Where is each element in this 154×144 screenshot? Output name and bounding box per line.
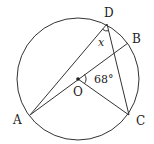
angle-arc-d — [103, 29, 109, 31]
geometry-diagram: D B A C O x 68° — [0, 0, 154, 144]
label-d: D — [104, 6, 114, 20]
label-c: C — [136, 114, 145, 128]
label-a: A — [12, 113, 22, 127]
angle-label-68: 68° — [94, 73, 114, 86]
angle-label-x: x — [98, 36, 105, 49]
center-point-o — [76, 77, 80, 81]
angle-arc-o — [84, 74, 86, 83]
label-o: O — [73, 85, 83, 99]
diagram-svg: D B A C O x 68° — [0, 0, 154, 144]
chord-ad — [30, 24, 107, 115]
label-b: B — [132, 32, 141, 46]
